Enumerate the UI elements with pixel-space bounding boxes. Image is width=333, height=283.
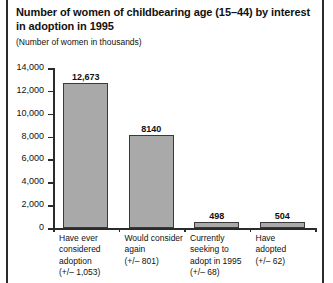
bar-value-label: 8140 xyxy=(141,124,161,134)
y-axis-tick-label: 6,000 xyxy=(21,153,44,164)
x-axis-tick-mark xyxy=(315,228,317,232)
x-axis-category-label: Have everconsideredadoption(+/– 1,053) xyxy=(59,233,119,278)
x-axis-tick-mark xyxy=(184,228,186,232)
figure-border-left xyxy=(6,0,8,283)
y-axis-tick-label: 12,000 xyxy=(16,85,44,96)
bar-value-label: 504 xyxy=(275,211,290,221)
bar: 8140 xyxy=(129,135,174,228)
category-label-line: Have ever xyxy=(59,233,119,244)
y-axis-tick-label: 4,000 xyxy=(21,176,44,187)
chart-title: Number of women of childbearing age (15–… xyxy=(16,6,312,33)
y-axis-tick-label: 14,000 xyxy=(16,62,44,73)
category-label-line: adoption xyxy=(59,256,119,267)
category-label-line: (+/– 801) xyxy=(125,256,185,267)
x-axis-category-label: Would consideragain(+/– 801) xyxy=(125,233,185,267)
category-label-line: adopt in 1995 xyxy=(190,256,250,267)
category-label-line: Would consider xyxy=(125,233,185,244)
chart-figure: Number of women of childbearing age (15–… xyxy=(0,0,333,283)
x-axis-tick-mark xyxy=(53,228,55,232)
category-label-line: (+/– 68) xyxy=(190,267,250,278)
category-label-line: considered xyxy=(59,244,119,255)
y-axis-tick-label: 2,000 xyxy=(21,199,44,210)
category-label-line: Have xyxy=(256,233,316,244)
bar-value-label: 12,673 xyxy=(72,72,100,82)
x-axis-category-labels: Have everconsideredadoption(+/– 1,053)Wo… xyxy=(53,233,316,281)
y-axis-tick-label: 10,000 xyxy=(16,108,44,119)
y-axis-tick-label: 0 xyxy=(39,222,44,233)
y-axis-tick-label: 8,000 xyxy=(21,131,44,142)
x-axis-category-label: Currentlyseeking toadopt in 1995(+/– 68) xyxy=(190,233,250,278)
plot-area: 12,6738140498504 xyxy=(53,68,315,228)
bar: 12,673 xyxy=(63,83,108,228)
category-label-line: (+/– 62) xyxy=(256,256,316,267)
bar: 504 xyxy=(260,222,305,228)
category-label-line: (+/– 1,053) xyxy=(59,267,119,278)
x-axis-tick-mark xyxy=(250,228,252,232)
chart-subtitle: (Number of women in thousands) xyxy=(16,37,312,48)
category-label-line: adopted xyxy=(256,244,316,255)
title-block: Number of women of childbearing age (15–… xyxy=(16,6,312,48)
x-axis-tick-mark xyxy=(119,228,121,232)
bar: 498 xyxy=(194,222,239,228)
category-label-line: Currently xyxy=(190,233,250,244)
category-label-line: again xyxy=(125,244,185,255)
x-axis-category-label: Haveadopted(+/– 62) xyxy=(256,233,316,267)
category-label-line: seeking to xyxy=(190,244,250,255)
figure-border-right xyxy=(322,0,324,283)
bar-value-label: 498 xyxy=(209,211,224,221)
